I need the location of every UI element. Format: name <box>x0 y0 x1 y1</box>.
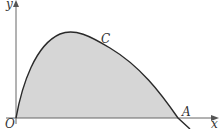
graph-canvas: y x O C A <box>0 0 221 129</box>
x-axis-label: x <box>211 117 218 129</box>
origin-label: O <box>5 117 15 129</box>
shaded-region <box>16 32 178 118</box>
curve-label: C <box>101 32 110 46</box>
point-a-label: A <box>181 105 191 119</box>
y-axis-arrow-icon <box>13 0 19 7</box>
y-axis-label: y <box>5 0 13 11</box>
